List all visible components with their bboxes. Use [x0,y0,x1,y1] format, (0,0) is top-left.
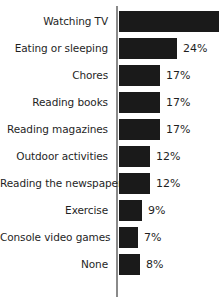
bar-category-label: Reading the newspaper [0,173,108,194]
bar-value-label: 7% [144,227,161,248]
bar-row: Reading books17% [0,92,219,119]
bar [119,38,177,59]
bar-row: Reading the newspaper12% [0,173,219,200]
bar-row: Watching TV [0,11,219,38]
bar-value-label: 9% [148,200,165,221]
bar [119,119,160,140]
bar [119,11,219,32]
bar [119,146,150,167]
bar [119,254,140,275]
bar-category-label: Chores [0,65,108,86]
bar [119,65,160,86]
bar-category-label: Console video games [0,227,108,248]
bar-category-label: Reading magazines [0,119,108,140]
bar [119,227,138,248]
bar-value-label: 17% [166,92,190,113]
bar-value-label: 8% [146,254,163,275]
bar-category-label: Outdoor activities [0,146,108,167]
bar [119,173,150,194]
bar-row: None8% [0,254,219,281]
bar-value-label: 12% [156,146,180,167]
bar-value-label: 17% [166,119,190,140]
bar-category-label: Watching TV [0,11,108,32]
bar [119,92,160,113]
bar-value-label: 24% [183,38,207,59]
bar-category-label: Eating or sleeping [0,38,108,59]
bar-category-label: None [0,254,108,275]
horizontal-bar-chart: Watching TVEating or sleeping24%Chores17… [0,0,219,304]
bar-row: Outdoor activities12% [0,146,219,173]
bar-value-label: 12% [156,173,180,194]
bar [119,200,142,221]
bar-row: Exercise9% [0,200,219,227]
bar-value-label: 17% [166,65,190,86]
bar-row: Reading magazines17% [0,119,219,146]
bar-row: Console video games7% [0,227,219,254]
bar-category-label: Reading books [0,92,108,113]
bar-category-label: Exercise [0,200,108,221]
bar-row: Eating or sleeping24% [0,38,219,65]
bar-row: Chores17% [0,65,219,92]
